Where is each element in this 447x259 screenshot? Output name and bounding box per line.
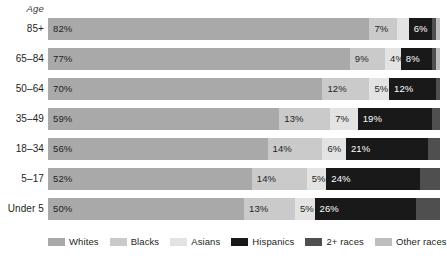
segment-value-label: 70% — [48, 84, 72, 94]
legend-item-whites[interactable]: Whites — [48, 236, 99, 247]
bar-segment-hispanics[interactable]: 8% — [401, 48, 432, 70]
legend-item-hispanics[interactable]: Hispanics — [231, 236, 294, 247]
bar-segment-blacks[interactable]: 14% — [268, 138, 323, 160]
segment-value-label: 5% — [369, 84, 388, 94]
bar-segment-hispanics[interactable]: 19% — [358, 108, 432, 130]
segment-value-label: 21% — [346, 144, 370, 154]
chart-row: 65–8477%9%4%8% — [0, 48, 441, 78]
bar-segment-hispanics[interactable]: 12% — [389, 78, 436, 100]
chart-row: 50–6470%12%5%12% — [0, 78, 441, 108]
legend-item-2+-races[interactable]: 2+ races — [305, 236, 364, 247]
segment-value-label: 14% — [252, 174, 276, 184]
bar-segment-whites[interactable]: 77% — [48, 48, 350, 70]
bar-segment-whites[interactable]: 70% — [48, 78, 322, 100]
row-label-5-17: 5–17 — [0, 168, 44, 190]
segment-value-label: 4% — [385, 54, 401, 64]
bar-segment-asians[interactable]: 6% — [322, 138, 346, 160]
legend-label: Other races — [396, 236, 447, 247]
segment-value-label: 8% — [401, 54, 420, 64]
legend-swatch-icon — [305, 238, 322, 246]
segment-value-label: 12% — [389, 84, 413, 94]
bar-segment-2+-races[interactable] — [428, 138, 440, 160]
segment-value-label: 6% — [409, 24, 428, 34]
segment-value-label: 59% — [48, 114, 72, 124]
bar-segment-whites[interactable]: 50% — [48, 198, 244, 220]
bar-segment-whites[interactable]: 56% — [48, 138, 268, 160]
chart-row: 18–3456%14%6%21% — [0, 138, 441, 168]
bar-segment-other-races[interactable] — [436, 48, 440, 70]
segment-value-label: 13% — [244, 204, 268, 214]
chart-row: 35–4959%13%7%19% — [0, 108, 441, 138]
bar-segment-asians[interactable]: 4% — [385, 48, 401, 70]
legend-label: Blacks — [131, 236, 160, 247]
legend-item-blacks[interactable]: Blacks — [110, 236, 160, 247]
legend-label: Asians — [191, 236, 220, 247]
bar-segment-2+-races[interactable] — [432, 108, 440, 130]
row-label-18-34: 18–34 — [0, 138, 44, 160]
bar-segment-whites[interactable]: 52% — [48, 168, 252, 190]
segment-value-label: 13% — [279, 114, 303, 124]
bar-segment-hispanics[interactable]: 6% — [409, 18, 433, 40]
stacked-bar: 77%9%4%8% — [48, 48, 440, 70]
bar-segment-2+-races[interactable] — [436, 78, 440, 100]
bar-segment-asians[interactable]: 5% — [295, 198, 315, 220]
segment-value-label: 7% — [369, 24, 388, 34]
stacked-bar: 56%14%6%21% — [48, 138, 440, 160]
legend-swatch-icon — [231, 238, 248, 246]
bar-segment-2+-races[interactable] — [420, 168, 440, 190]
segment-value-label: 9% — [350, 54, 369, 64]
legend-label: Whites — [69, 236, 99, 247]
legend-swatch-icon — [48, 238, 65, 246]
stacked-bar: 52%14%5%24% — [48, 168, 440, 190]
segment-value-label: 19% — [358, 114, 382, 124]
segment-value-label: 6% — [322, 144, 341, 154]
bar-segment-asians[interactable]: 7% — [330, 108, 357, 130]
bar-segment-asians[interactable]: 5% — [369, 78, 389, 100]
segment-value-label: 82% — [48, 24, 72, 34]
bar-segment-whites[interactable]: 59% — [48, 108, 279, 130]
segment-value-label: 5% — [307, 174, 326, 184]
row-label-85+: 85+ — [0, 18, 44, 40]
bar-segment-blacks[interactable]: 9% — [350, 48, 385, 70]
stacked-bar: 59%13%7%19% — [48, 108, 440, 130]
segment-value-label: 26% — [315, 204, 339, 214]
stacked-bar: 50%13%5%26% — [48, 198, 440, 220]
segment-value-label: 7% — [330, 114, 349, 124]
segment-value-label: 56% — [48, 144, 72, 154]
legend-swatch-icon — [110, 238, 127, 246]
row-label-35-49: 35–49 — [0, 108, 44, 130]
chart-legend: WhitesBlacksAsiansHispanics2+ racesOther… — [48, 236, 441, 247]
segment-value-label: 12% — [322, 84, 346, 94]
bar-segment-hispanics[interactable]: 24% — [326, 168, 420, 190]
bar-segment-asians[interactable] — [397, 18, 409, 40]
bar-segment-hispanics[interactable]: 21% — [346, 138, 428, 160]
segment-value-label: 14% — [268, 144, 292, 154]
legend-item-asians[interactable]: Asians — [170, 236, 220, 247]
bar-segment-hispanics[interactable]: 26% — [315, 198, 417, 220]
bar-segment-other-races[interactable] — [436, 18, 440, 40]
segment-value-label: 5% — [295, 204, 314, 214]
row-label-65-84: 65–84 — [0, 48, 44, 70]
segment-value-label: 77% — [48, 54, 72, 64]
legend-swatch-icon — [170, 238, 187, 246]
plot-area: 85+82%7%6%65–8477%9%4%8%50–6470%12%5%12%… — [0, 18, 441, 228]
bar-segment-blacks[interactable]: 14% — [252, 168, 307, 190]
segment-value-label: 24% — [326, 174, 350, 184]
bar-segment-2+-races[interactable] — [416, 198, 440, 220]
legend-swatch-icon — [375, 238, 392, 246]
chart-row: 5–1752%14%5%24% — [0, 168, 441, 198]
bar-segment-blacks[interactable]: 12% — [322, 78, 369, 100]
bar-segment-blacks[interactable]: 7% — [369, 18, 396, 40]
row-label-under-5: Under 5 — [0, 198, 44, 220]
bar-segment-asians[interactable]: 5% — [307, 168, 327, 190]
legend-label: Hispanics — [252, 236, 294, 247]
segment-value-label: 50% — [48, 204, 72, 214]
segment-value-label: 52% — [48, 174, 72, 184]
bar-segment-blacks[interactable]: 13% — [279, 108, 330, 130]
legend-item-other-races[interactable]: Other races — [375, 236, 447, 247]
bar-segment-whites[interactable]: 82% — [48, 18, 369, 40]
chart-row: 85+82%7%6% — [0, 18, 441, 48]
bar-segment-blacks[interactable]: 13% — [244, 198, 295, 220]
stacked-bar: 82%7%6% — [48, 18, 440, 40]
